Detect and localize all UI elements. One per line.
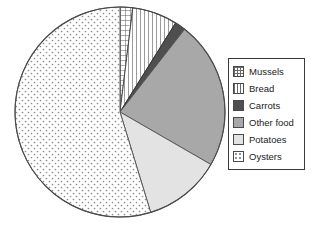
legend-item[interactable]: Mussels: [233, 63, 304, 80]
swatch-potatoes: [233, 134, 244, 145]
legend-item[interactable]: Bread: [233, 80, 304, 97]
swatch-carrots: [233, 100, 244, 111]
swatch-oysters: [233, 151, 244, 162]
legend-item[interactable]: Oysters: [233, 148, 304, 165]
legend-item[interactable]: Other food: [233, 114, 304, 131]
legend-label-potatoes: Potatoes: [249, 134, 287, 145]
legend-label-oysters: Oysters: [249, 151, 282, 162]
swatch-bread: [233, 83, 244, 94]
chart-legend: Mussels Bread Carrots Other food Potatoe…: [228, 58, 305, 170]
legend-item[interactable]: Carrots: [233, 97, 304, 114]
swatch-other-food: [233, 117, 244, 128]
pie-slices-group: [15, 7, 225, 217]
legend-label-other-food: Other food: [249, 117, 294, 128]
legend-label-mussels: Mussels: [249, 66, 284, 77]
legend-label-carrots: Carrots: [249, 100, 280, 111]
swatch-mussels: [233, 66, 244, 77]
legend-label-bread: Bread: [249, 83, 274, 94]
legend-item[interactable]: Potatoes: [233, 131, 304, 148]
